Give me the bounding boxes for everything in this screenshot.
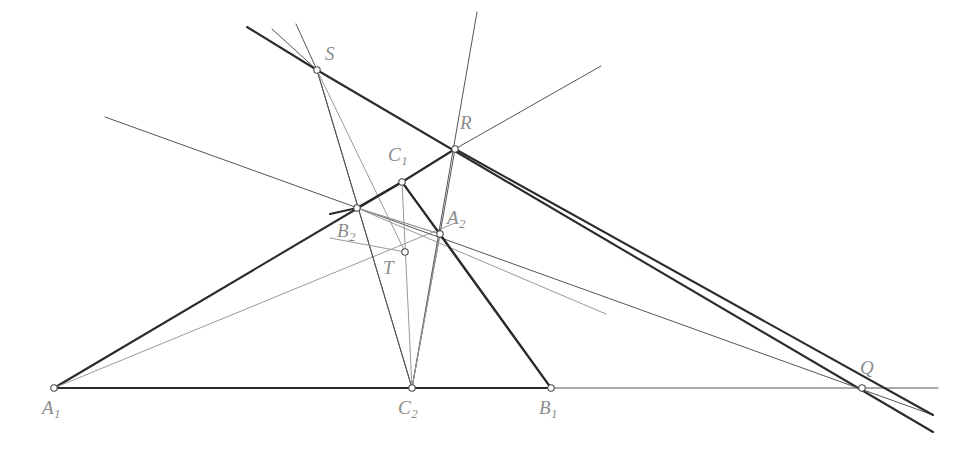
label-T-letter: T (383, 257, 394, 278)
label-T: T (383, 258, 394, 277)
vertex-R (452, 146, 458, 152)
label-B2-subscript: 2 (349, 229, 355, 244)
vertex-B1 (548, 385, 554, 391)
lines-layer (54, 12, 938, 432)
segment-A1-C1-side (54, 182, 402, 388)
label-A1-letter: A (42, 397, 54, 418)
label-A1: A1 (42, 398, 61, 421)
label-B2-letter: B (337, 220, 349, 241)
label-C1-subscript: 1 (401, 153, 407, 168)
segment-C1-T-median (402, 182, 412, 388)
label-A2-letter: A (447, 207, 459, 228)
vertex-B2 (354, 205, 360, 211)
geometry-canvas (0, 0, 971, 455)
vertex-S (314, 67, 320, 73)
label-A2: A2 (447, 208, 466, 231)
vertex-C2 (409, 385, 415, 391)
label-B2: B2 (337, 221, 356, 244)
label-B1: B1 (539, 398, 558, 421)
label-S: S (325, 44, 335, 63)
label-C2-letter: C (398, 397, 411, 418)
label-Q: Q (860, 358, 874, 377)
segment-perspectrix-B2RQ (105, 117, 933, 415)
label-C1-letter: C (388, 144, 401, 165)
label-R-letter: R (460, 112, 472, 133)
segment-A2-B2-T (357, 208, 440, 234)
segment-S-up-thick (247, 27, 317, 70)
segment-A1-A2-cevian (54, 223, 455, 388)
label-R: R (460, 113, 472, 132)
vertex-T (402, 249, 408, 255)
segment-R-upright-ray (455, 66, 601, 149)
label-C2-subscript: 2 (411, 406, 417, 421)
vertex-A1 (51, 385, 57, 391)
label-Q-letter: Q (860, 357, 874, 378)
label-A2-subscript: 2 (459, 216, 465, 231)
vertex-Q (859, 385, 865, 391)
label-A1-subscript: 1 (54, 406, 60, 421)
segment-C1-R-thick (402, 149, 455, 182)
label-C2: C2 (398, 398, 418, 421)
label-C1: C1 (388, 145, 408, 168)
segment-B2-A2-light (357, 208, 606, 314)
segment-B2-C1-thick (357, 182, 402, 208)
vertex-C1 (399, 179, 405, 185)
label-B1-letter: B (539, 397, 551, 418)
label-B1-subscript: 1 (551, 406, 557, 421)
segment-S-up-thin-1 (272, 29, 317, 70)
geometry-figure: A1B1C2B2C1A2TSRQ (0, 0, 971, 455)
vertex-A2 (437, 231, 443, 237)
label-S-letter: S (325, 43, 335, 64)
segment-A2-T-C2-light (412, 234, 440, 388)
